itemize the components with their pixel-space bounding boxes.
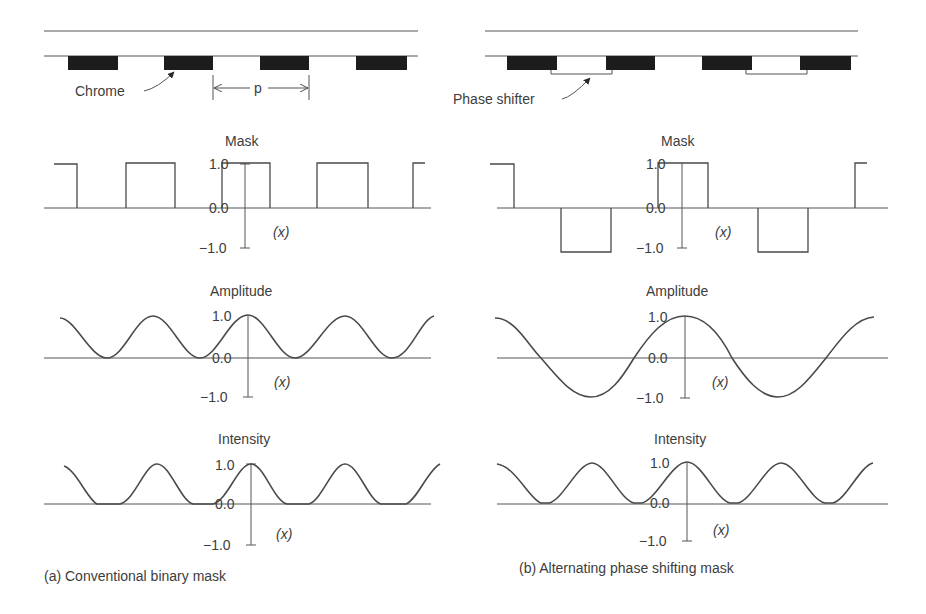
mask-cross-section: Phase shifter <box>453 31 858 107</box>
mask-opening <box>317 163 368 208</box>
tick-label-1: 1.0 <box>648 309 668 325</box>
mask-plot-title: Mask <box>225 133 259 149</box>
tick-label-0: 0.0 <box>212 350 232 366</box>
tick-label-neg1: −1.0 <box>639 533 667 549</box>
mask-opening <box>855 163 867 208</box>
phase-shifted-opening <box>561 208 611 252</box>
mask-cross-section: Chrome p <box>44 31 418 100</box>
amplitude-plot-title: Amplitude <box>210 283 272 299</box>
mask-opening <box>490 164 514 208</box>
caption-a: (a) Conventional binary mask <box>44 568 227 584</box>
pitch-label: p <box>254 80 262 96</box>
caption-b: (b) Alternating phase shifting mask <box>519 560 735 576</box>
chrome-block <box>68 56 118 70</box>
tick-label-0: 0.0 <box>215 496 235 512</box>
mask-plot-title: Mask <box>661 133 695 149</box>
chrome-block <box>702 56 752 70</box>
mask-opening <box>126 163 175 208</box>
intensity-plot-title: Intensity <box>218 431 270 447</box>
intensity-plot: Intensity 1.0 0.0 −1.0 (x) <box>44 431 440 553</box>
x-axis-label: (x) <box>276 526 292 542</box>
chrome-block <box>507 56 557 70</box>
x-axis-label: (x) <box>273 224 289 240</box>
lithography-mask-diagram: Chrome p Mask 1.0 0.0 −1.0 (x) <box>0 0 926 614</box>
x-axis-label: (x) <box>712 374 728 390</box>
tick-label-neg1: −1.0 <box>199 240 227 256</box>
tick-label-0: 0.0 <box>209 200 229 216</box>
phase-shifter <box>551 70 612 74</box>
amplitude-plot: Amplitude 1.0 0.0 −1.0 (x) <box>495 283 888 406</box>
phase-shifter <box>746 70 807 74</box>
mask-transmission-plot: Mask 1.0 0.0 −1.0 (x) <box>490 133 888 256</box>
x-axis-label: (x) <box>713 522 729 538</box>
x-axis-label: (x) <box>715 224 731 240</box>
tick-label-neg1: −1.0 <box>636 390 664 406</box>
intensity-plot: Intensity 1.0 0.0 −1.0 (x) <box>497 431 888 549</box>
mask-opening <box>413 163 425 208</box>
intensity-curve <box>64 464 440 504</box>
tick-label-1: 1.0 <box>212 308 232 324</box>
tick-label-neg1: −1.0 <box>636 240 664 256</box>
mask-opening <box>54 164 77 208</box>
mask-opening <box>658 163 708 208</box>
tick-label-0: 0.0 <box>646 200 666 216</box>
mask-transmission-plot: Mask 1.0 0.0 −1.0 (x) <box>44 133 431 256</box>
tick-label-neg1: −1.0 <box>203 537 231 553</box>
amplitude-curve <box>60 315 434 358</box>
chrome-label: Chrome <box>75 83 125 99</box>
tick-label-1: 1.0 <box>650 455 670 471</box>
phase-shifter-arrow-icon <box>562 78 590 99</box>
intensity-curve <box>497 462 873 503</box>
amplitude-plot: Amplitude 1.0 0.0 −1.0 (x) <box>44 283 434 405</box>
x-axis-label: (x) <box>274 374 290 390</box>
tick-label-1: 1.0 <box>646 156 666 172</box>
tick-label-0: 0.0 <box>648 350 668 366</box>
phase-shifter-label: Phase shifter <box>453 91 535 107</box>
chrome-arrow-icon <box>144 72 174 91</box>
tick-label-0: 0.0 <box>650 495 670 511</box>
phase-shifted-opening <box>758 208 808 252</box>
chrome-block <box>800 56 851 70</box>
amplitude-plot-title: Amplitude <box>646 283 708 299</box>
tick-label-1: 1.0 <box>209 156 229 172</box>
chrome-block <box>260 56 309 70</box>
tick-label-1: 1.0 <box>215 457 235 473</box>
chrome-block <box>606 56 655 70</box>
tick-label-neg1: −1.0 <box>200 389 228 405</box>
panel-alternating-phase-shifting-mask: Phase shifter Mask 1.0 0.0 −1.0 (x) Ampl… <box>453 31 888 576</box>
mask-opening <box>222 163 270 208</box>
panel-conventional-binary-mask: Chrome p Mask 1.0 0.0 −1.0 (x) <box>44 31 440 584</box>
chrome-block <box>164 56 213 70</box>
intensity-plot-title: Intensity <box>654 431 706 447</box>
chrome-block <box>356 56 407 70</box>
